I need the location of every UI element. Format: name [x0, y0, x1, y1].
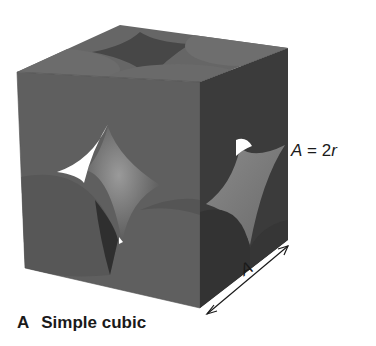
- panel-letter: A: [17, 313, 29, 332]
- caption-text: Simple cubic: [41, 313, 146, 332]
- edge-radius-equation: A = 2r: [291, 141, 337, 161]
- simple-cubic-unit-cell-diagram: [0, 0, 376, 346]
- equation-variable: r: [331, 141, 337, 160]
- equation-lhs: A: [291, 141, 302, 160]
- equation-coefficient: 2: [322, 141, 331, 160]
- equation-operator: =: [307, 141, 317, 160]
- front-face: [17, 72, 200, 308]
- figure-caption: ASimple cubic: [17, 313, 146, 333]
